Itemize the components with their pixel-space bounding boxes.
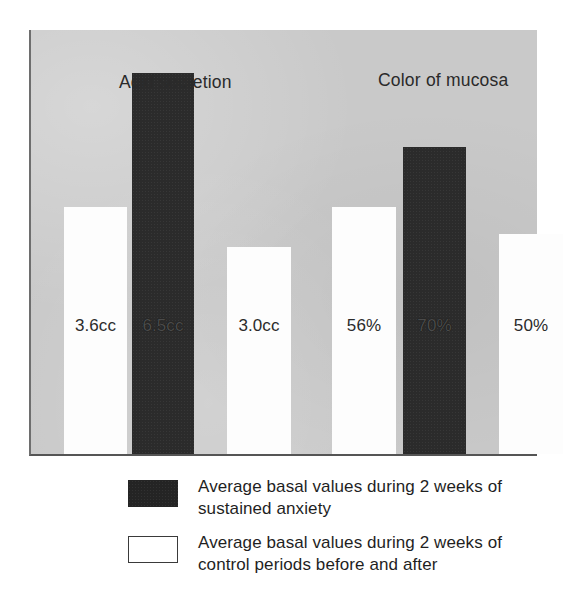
bar-1: 6.5cc (132, 73, 194, 454)
bar-value-label-3: 56% (332, 316, 396, 336)
plot-panel: Acid secretion Color of mucosa 3.6cc6.5c… (29, 30, 537, 456)
legend-label-anxiety-line1: Average basal values during 2 weeks of (198, 476, 502, 498)
legend-label-anxiety: Average basal values during 2 weeks of s… (198, 476, 502, 519)
bar-value-label-4: 70% (403, 316, 466, 336)
bar-value-label-2: 3.0cc (227, 316, 291, 336)
legend-swatch-control (128, 536, 178, 563)
bar-value-label-0: 3.6cc (64, 316, 127, 336)
legend: Average basal values during 2 weeks of s… (128, 476, 558, 588)
group-title-color-of-mucosa: Color of mucosa (378, 70, 508, 91)
legend-label-control-line2: control periods before and after (198, 554, 502, 576)
legend-label-anxiety-line2: sustained anxiety (198, 498, 502, 520)
bar-3: 56% (332, 207, 396, 454)
legend-item-control: Average basal values during 2 weeks of c… (128, 532, 558, 575)
legend-label-control-line1: Average basal values during 2 weeks of (198, 532, 502, 554)
bar-value-label-5: 50% (499, 316, 563, 336)
legend-label-control: Average basal values during 2 weeks of c… (198, 532, 502, 575)
bar-chart-figure: Acid secretion Color of mucosa 3.6cc6.5c… (0, 0, 574, 605)
bar-value-label-1: 6.5cc (132, 316, 194, 336)
group-title-acid-secretion: Acid secretion (119, 72, 232, 93)
bar-5: 50% (499, 234, 563, 454)
bar-0: 3.6cc (64, 207, 127, 454)
bar-2: 3.0cc (227, 247, 291, 454)
legend-swatch-anxiety (128, 480, 178, 507)
bar-4: 70% (403, 147, 466, 454)
legend-item-anxiety: Average basal values during 2 weeks of s… (128, 476, 558, 519)
